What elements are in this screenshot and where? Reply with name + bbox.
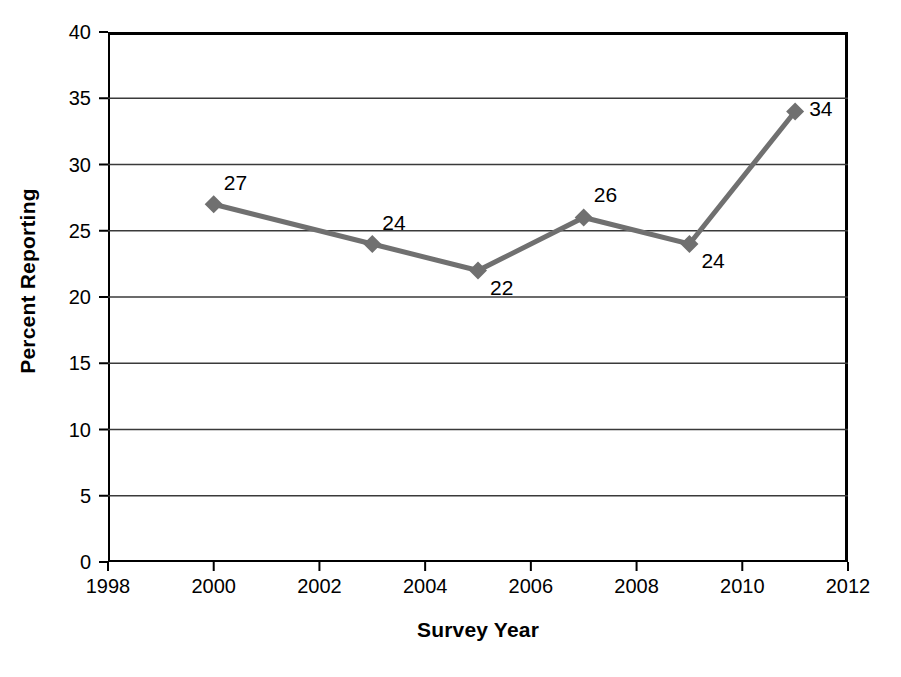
data-point-label: 22 (490, 277, 513, 298)
x-tick-label: 2000 (169, 576, 259, 596)
data-point-label: 24 (382, 212, 405, 233)
x-tick-label: 2012 (803, 576, 893, 596)
plot-area (108, 32, 848, 562)
x-axis-title-text: Survey Year (417, 618, 539, 641)
line-chart: Percent Reporting 0510152025303540 19982… (0, 0, 901, 677)
y-tick-label: 10 (25, 420, 91, 440)
x-tick-label: 2010 (697, 576, 787, 596)
x-tick-label: 2008 (592, 576, 682, 596)
x-tick-label: 2006 (486, 576, 576, 596)
x-axis-title: Survey Year (108, 618, 848, 642)
y-tick-label: 30 (25, 155, 91, 175)
x-tick-label: 2002 (274, 576, 364, 596)
y-tick-label: 0 (25, 552, 91, 572)
data-point-label: 26 (594, 184, 617, 205)
y-tick-label: 25 (25, 221, 91, 241)
data-point-label: 24 (701, 250, 724, 271)
y-axis-tick-marks (99, 32, 108, 562)
y-tick-label: 20 (25, 287, 91, 307)
data-point-label: 27 (224, 172, 247, 193)
x-tick-label: 1998 (63, 576, 153, 596)
y-tick-label: 5 (25, 486, 91, 506)
y-tick-label: 40 (25, 22, 91, 42)
x-axis-tick-marks (108, 562, 848, 571)
y-axis-title-text: Percent Reporting (16, 188, 40, 373)
y-axis-title: Percent Reporting (0, 0, 56, 562)
y-tick-label: 15 (25, 353, 91, 373)
data-point-label: 34 (809, 98, 832, 119)
x-tick-label: 2004 (380, 576, 470, 596)
y-tick-label: 35 (25, 88, 91, 108)
